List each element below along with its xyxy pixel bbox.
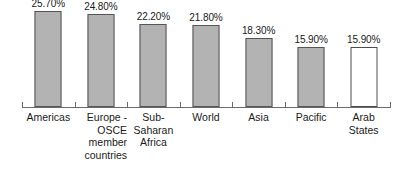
x-axis-labels: AmericasEurope - OSCE member countriesSu…	[22, 111, 390, 173]
x-label-europe: Europe - OSCE member countries	[75, 111, 128, 161]
bars-layer: 25.70%24.80%22.20%21.80%18.30%15.90%15.9…	[22, 0, 390, 107]
bar-column	[350, 0, 377, 107]
axis-tick	[390, 102, 391, 108]
x-label-asia: Asia	[232, 111, 285, 124]
axis-tick	[232, 102, 233, 108]
axis-tick	[180, 102, 181, 108]
axis-tick	[285, 102, 286, 108]
bar-chart: 25.70%24.80%22.20%21.80%18.30%15.90%15.9…	[0, 0, 411, 173]
x-axis-ticks	[22, 102, 390, 108]
bar-asia	[245, 38, 272, 107]
x-label-americas: Americas	[22, 111, 75, 124]
bar-europe---osce-member-countries	[87, 14, 114, 107]
bar-value-label: 22.20%	[137, 11, 170, 22]
bar-group: 24.80%	[75, 0, 128, 107]
axis-tick	[127, 102, 128, 108]
axis-tick	[75, 102, 76, 108]
bar-column	[298, 0, 325, 107]
plot-area: 25.70%24.80%22.20%21.80%18.30%15.90%15.9…	[0, 0, 411, 110]
x-label-pacific: Pacific	[285, 111, 338, 124]
x-label-sub: Sub- Saharan Africa	[127, 111, 180, 149]
bar-group: 18.30%	[232, 0, 285, 107]
bar-value-label: 24.80%	[84, 1, 117, 12]
bar-value-label: 15.90%	[347, 34, 380, 45]
bar-group: 25.70%	[22, 0, 75, 107]
bar-column	[35, 0, 62, 107]
bar-value-label: 18.30%	[242, 25, 275, 36]
bar-world	[192, 25, 219, 107]
bar-value-label: 21.80%	[189, 12, 222, 23]
bar-sub--saharan-africa	[140, 24, 167, 107]
x-label-world: World	[180, 111, 233, 124]
bar-pacific	[298, 47, 325, 107]
bar-group: 15.90%	[337, 0, 390, 107]
x-label-arabstates: Arab States	[337, 111, 390, 136]
bar-value-label: 25.70%	[32, 0, 65, 9]
bar-column	[87, 0, 114, 107]
bar-group: 22.20%	[127, 0, 180, 107]
bar-group: 21.80%	[180, 0, 233, 107]
axis-tick	[337, 102, 338, 108]
bar-value-label: 15.90%	[294, 34, 327, 45]
bar-column	[245, 0, 272, 107]
bar-arab-states	[350, 47, 377, 107]
axis-tick	[22, 102, 23, 108]
bar-group: 15.90%	[285, 0, 338, 107]
bar-americas	[35, 11, 62, 107]
